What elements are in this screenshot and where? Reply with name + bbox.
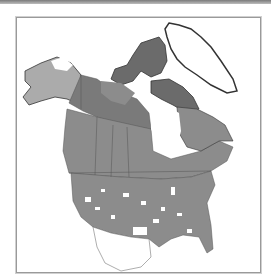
arctic-islands — [111, 37, 167, 85]
hudson-bay — [151, 107, 181, 151]
top-bar — [0, 0, 271, 4]
range-map — [17, 18, 260, 272]
map-frame — [16, 17, 261, 273]
